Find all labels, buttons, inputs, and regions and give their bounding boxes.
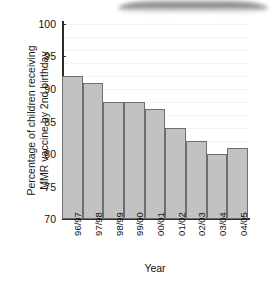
x-axis-tick-label: 02/03 [196,212,207,236]
bar [207,154,228,219]
x-axis-tick-label: 04/05 [238,212,249,236]
bar [145,109,166,220]
y-axis-tick-label: 95 [44,50,62,62]
y-axis-tick-label: 90 [44,83,62,95]
x-axis-tick-labels: 96/9797/9898/9999/0000/0101/0202/0303/04… [62,222,248,258]
x-tick-slot: 02/03 [186,222,207,258]
bar [103,102,124,219]
x-tick-slot: 03/04 [207,222,228,258]
x-axis-tick-label: 99/00 [134,212,145,236]
y-axis-tick-label: 100 [38,18,62,30]
x-axis-tick-label: 97/98 [93,212,104,236]
x-tick-slot: 01/02 [165,222,186,258]
x-tick-slot: 99/00 [124,222,145,258]
bar-slot [62,24,83,219]
x-axis-title: Year [62,262,248,274]
x-tick-slot: 98/99 [103,222,124,258]
x-axis-tick-label: 00/01 [155,212,166,236]
bar-slot [186,24,207,219]
bar-series [62,24,248,219]
x-axis-tick-label: 03/04 [217,212,228,236]
bar-slot [227,24,248,219]
y-axis-tick-label: 75 [44,181,62,193]
scan-smudge-artifact [118,0,268,14]
x-tick-slot: 00/01 [145,222,166,258]
y-axis-tick-label: 80 [44,148,62,160]
bar-slot [165,24,186,219]
y-axis-tick-label: 85 [44,116,62,128]
bar-slot [103,24,124,219]
bar-slot [145,24,166,219]
x-tick-slot: 04/05 [227,222,248,258]
chart-figure: Percentage of children receiving MMR vac… [0,0,276,285]
bar [165,128,186,219]
x-tick-slot: 97/98 [83,222,104,258]
bar-slot [207,24,228,219]
bar [62,76,83,219]
x-axis-tick-label: 96/97 [72,212,83,236]
x-axis-tick-label: 01/02 [176,212,187,236]
y-axis-tick-label: 70 [44,213,62,225]
plot-area: 100959085807570 [62,24,248,219]
bar-slot [124,24,145,219]
bar [83,83,104,220]
bar [227,148,248,220]
x-axis-tick-label: 98/99 [114,212,125,236]
x-tick-slot: 96/97 [62,222,83,258]
bar-slot [83,24,104,219]
bar [124,102,145,219]
bar [186,141,207,219]
